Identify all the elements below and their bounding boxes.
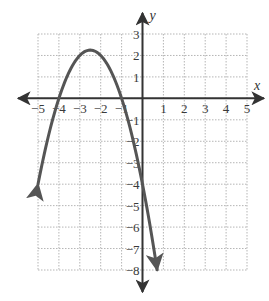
function-graph: −5−4−3−2−112345321−1−2−3−4−5−6−7−8 x y [0, 0, 269, 301]
y-tick-label: −7 [126, 242, 140, 257]
x-tick-label: 3 [202, 101, 209, 116]
x-tick-label: −3 [73, 101, 87, 116]
y-tick-label: 3 [133, 27, 140, 42]
x-tick-label: −2 [94, 101, 108, 116]
axes [18, 13, 264, 292]
y-tick-label: −6 [126, 220, 140, 235]
y-tick-label: −8 [126, 263, 140, 278]
y-axis-label: y [148, 8, 157, 23]
x-tick-label: 2 [181, 101, 188, 116]
x-tick-label: 4 [223, 101, 230, 116]
y-tick-label: 2 [133, 48, 140, 63]
x-tick-label: 1 [160, 101, 167, 116]
y-tick-label: −5 [126, 199, 140, 214]
x-axis-label: x [253, 78, 261, 93]
y-tick-label: 1 [133, 70, 140, 85]
x-tick-label: −5 [31, 101, 45, 116]
x-tick-label: 5 [244, 101, 251, 116]
y-tick-label: −4 [126, 177, 140, 192]
tick-labels: −5−4−3−2−112345321−1−2−3−4−5−6−7−8 [31, 27, 250, 278]
